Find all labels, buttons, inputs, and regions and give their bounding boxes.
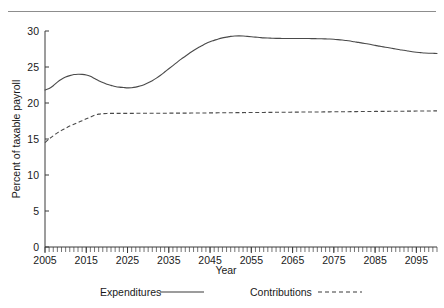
x-axis-tick-label: 2065: [281, 254, 305, 266]
x-axis-tick-label: 2015: [75, 254, 99, 266]
y-axis-tick-label: 15: [27, 133, 39, 145]
y-axis-title: Percent of taxable payroll: [10, 80, 22, 198]
series-line-expenditures: [45, 36, 437, 90]
y-axis-tick-label: 20: [27, 97, 39, 109]
x-axis-tick-label: 2035: [157, 254, 181, 266]
series-line-contributions: [45, 111, 437, 143]
legend-label-solid: Expenditures: [100, 286, 161, 298]
y-axis: 051015202530: [27, 25, 49, 253]
chart-legend: ExpendituresContributions: [100, 286, 362, 298]
top-divider-rule: [8, 11, 436, 12]
plot-series: [45, 36, 437, 143]
x-axis-title: Year: [215, 264, 237, 276]
legend-label-dashed: Contributions: [250, 286, 312, 298]
line-chart: 051015202530 200520152025203520452055206…: [0, 0, 444, 308]
y-axis-tick-label: 25: [27, 61, 39, 73]
y-axis-tick-label: 5: [33, 205, 39, 217]
x-axis-tick-label: 2085: [363, 254, 387, 266]
x-axis-tick-label: 2075: [322, 254, 346, 266]
x-axis-tick-label: 2055: [240, 254, 264, 266]
y-axis-tick-label: 10: [27, 169, 39, 181]
y-axis-tick-label: 0: [33, 241, 39, 253]
chart-figure: 051015202530 200520152025203520452055206…: [0, 0, 444, 308]
x-axis-tick-label: 2095: [405, 254, 429, 266]
y-axis-tick-label: 30: [27, 25, 39, 37]
x-axis-tick-label: 2025: [116, 254, 140, 266]
x-axis-tick-label: 2005: [33, 254, 57, 266]
